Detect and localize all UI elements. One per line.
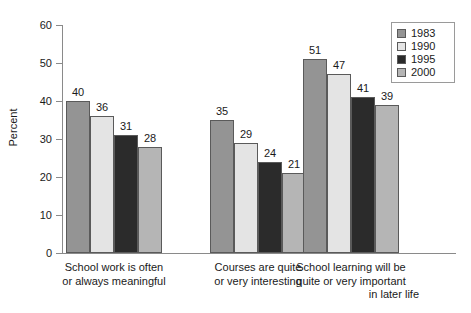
legend-swatch-icon xyxy=(397,42,406,51)
bar xyxy=(234,143,258,253)
category-label-line: School work is often xyxy=(48,261,180,275)
y-axis-tick xyxy=(56,101,62,102)
bar xyxy=(210,120,234,253)
bar xyxy=(114,135,138,253)
legend-swatch-icon xyxy=(397,68,406,77)
y-axis-tick-label: 30 xyxy=(18,134,52,145)
bar xyxy=(138,147,162,253)
legend-item: 2000 xyxy=(397,66,449,78)
bar xyxy=(66,101,90,253)
bar-chart: Percent 0102030405060 403631283529242151… xyxy=(0,0,471,313)
y-axis-tick xyxy=(56,25,62,26)
y-axis-tick xyxy=(56,63,62,64)
bar-value-label: 51 xyxy=(297,45,333,56)
legend-item-label: 1983 xyxy=(411,28,435,39)
category-label-line: School learning will be xyxy=(283,261,419,275)
bar-value-label: 24 xyxy=(252,148,288,159)
bar xyxy=(90,116,114,253)
category-label-line: or always meaningful xyxy=(48,275,180,289)
bar xyxy=(327,74,351,253)
legend-swatch-icon xyxy=(397,29,406,38)
y-axis-tick xyxy=(56,215,62,216)
category-label: School work is oftenor always meaningful xyxy=(48,261,180,288)
y-axis-tick-label: 10 xyxy=(18,210,52,221)
bar-value-label: 28 xyxy=(132,133,168,144)
bar-value-label: 47 xyxy=(321,60,357,71)
category-label: School learning will bequite or very imp… xyxy=(283,261,419,302)
legend-item-label: 1995 xyxy=(411,54,435,65)
bar-value-label: 40 xyxy=(60,87,96,98)
bar-value-label: 31 xyxy=(108,121,144,132)
legend-item: 1995 xyxy=(397,53,449,65)
y-axis-tick xyxy=(56,177,62,178)
legend-item-label: 2000 xyxy=(411,67,435,78)
bar-value-label: 39 xyxy=(369,91,405,102)
bar xyxy=(258,162,282,253)
legend-item: 1990 xyxy=(397,40,449,52)
y-axis-tick-label: 50 xyxy=(18,58,52,69)
legend-item-label: 1990 xyxy=(411,41,435,52)
category-label-line: in later life xyxy=(283,288,419,302)
x-axis-line xyxy=(62,253,456,254)
bar-value-label: 29 xyxy=(228,129,264,140)
legend-item: 1983 xyxy=(397,27,449,39)
y-axis-title: Percent xyxy=(8,88,19,168)
y-axis-tick-label: 20 xyxy=(18,172,52,183)
y-axis-tick-label: 60 xyxy=(18,20,52,31)
legend: 1983199019952000 xyxy=(391,22,455,83)
bar xyxy=(351,97,375,253)
y-axis-tick-label: 0 xyxy=(18,248,52,259)
y-axis-tick-label: 40 xyxy=(18,96,52,107)
y-axis-tick xyxy=(56,139,62,140)
legend-swatch-icon xyxy=(397,55,406,64)
bar-value-label: 36 xyxy=(84,102,120,113)
category-label-line: quite or very important xyxy=(283,275,419,289)
bar xyxy=(375,105,399,253)
y-axis-tick xyxy=(56,253,62,254)
bar xyxy=(303,59,327,253)
y-axis-line xyxy=(62,25,63,253)
bar-value-label: 35 xyxy=(204,106,240,117)
